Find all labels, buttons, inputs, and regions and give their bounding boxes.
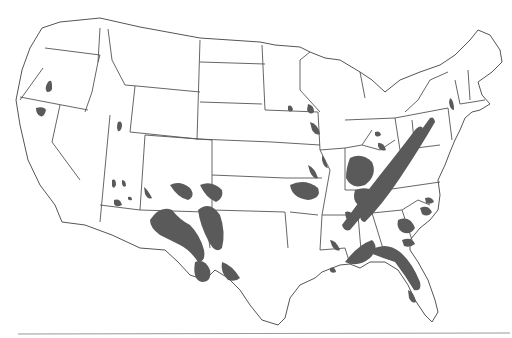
us-map	[0, 0, 512, 338]
bottom-rule	[18, 333, 510, 334]
us-map-svg	[0, 0, 512, 338]
shaded-region-georgia-east	[402, 239, 415, 247]
shaded-region-louisiana-delta	[330, 268, 336, 273]
